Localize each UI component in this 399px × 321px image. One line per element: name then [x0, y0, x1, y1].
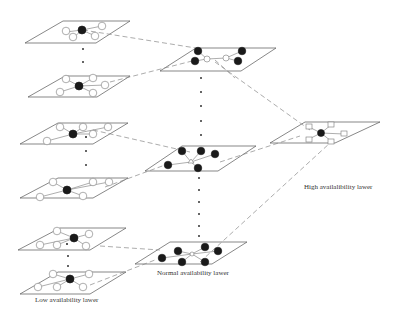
low-plane-3-nodes	[43, 123, 112, 145]
high-plane-nodes	[306, 122, 347, 144]
low-plane-2-nodes	[56, 74, 109, 97]
low-plane-1	[25, 21, 130, 43]
normal-plane-1	[160, 48, 276, 71]
low-plane-5-nodes	[36, 227, 93, 250]
normal-layer-label: Normal availability lawer	[157, 269, 229, 277]
low-plane-6	[20, 272, 126, 294]
normal-plane-2-nodes	[164, 147, 219, 172]
normal-plane-1-nodes	[191, 47, 246, 65]
low-layer-label: Low availability lawer	[35, 296, 98, 304]
normal-plane-3-nodes	[158, 243, 222, 266]
high-plane	[270, 122, 380, 143]
low-plane-4-nodes	[36, 178, 113, 201]
high-layer-label: High availalibility lawer	[304, 183, 372, 191]
low-plane-1-nodes	[62, 22, 106, 41]
